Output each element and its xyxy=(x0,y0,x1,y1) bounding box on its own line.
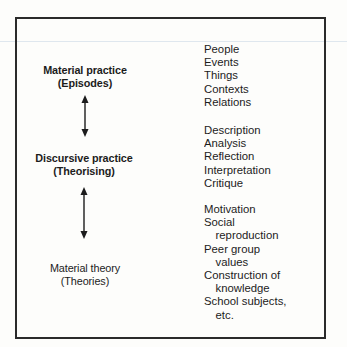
level-subtitle: (Theories) xyxy=(15,275,156,288)
level-subtitle: (Episodes) xyxy=(15,77,156,90)
list-item: reproduction xyxy=(204,229,286,242)
list-item: School subjects, xyxy=(204,295,286,308)
list-item: Reflection xyxy=(204,150,271,163)
list-item: Contexts xyxy=(204,83,251,96)
level-subtitle: (Theorising) xyxy=(14,165,155,178)
list-item: Critique xyxy=(204,177,271,190)
list-item: etc. xyxy=(204,309,286,322)
level-title: Material theory xyxy=(15,262,156,275)
item-list-material-theory: Motivation Social reproduction Peer grou… xyxy=(204,203,286,322)
level-title: Material practice xyxy=(15,64,156,77)
double-arrow-vertical-icon xyxy=(79,187,89,239)
list-item: Interpretation xyxy=(204,164,271,177)
list-item: Things xyxy=(204,69,251,82)
item-list-material-practice: People Events Things Contexts Relations xyxy=(204,43,251,109)
level-label-material-theory: Material theory (Theories) xyxy=(15,262,156,288)
list-item: Relations xyxy=(204,96,251,109)
level-label-discursive-practice: Discursive practice (Theorising) xyxy=(14,152,155,178)
list-item: Peer group xyxy=(204,243,286,256)
item-list-discursive-practice: Description Analysis Reflection Interpre… xyxy=(204,124,271,190)
double-arrow-vertical-icon xyxy=(80,95,90,137)
level-label-material-practice: Material practice (Episodes) xyxy=(15,64,156,90)
level-title: Discursive practice xyxy=(14,152,155,165)
